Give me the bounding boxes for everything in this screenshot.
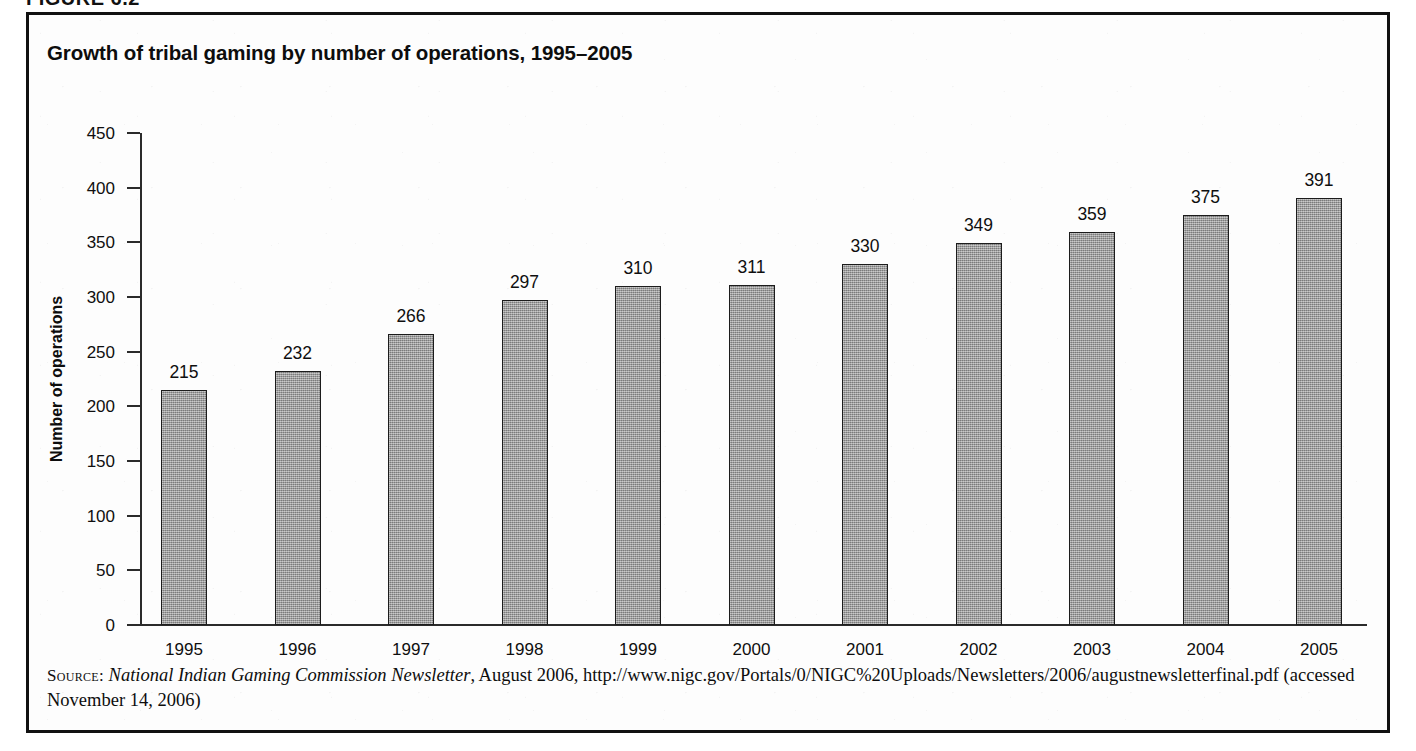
bar-value-label-2001: 330 xyxy=(825,236,905,257)
bar-value-label-2004: 375 xyxy=(1166,187,1246,208)
source-url: http://www.nigc.gov/Portals/0/NIGC%20Upl… xyxy=(583,665,1279,685)
bar-2004 xyxy=(1183,215,1229,625)
y-axis-tick-label: 100 xyxy=(55,507,115,527)
bar-1996 xyxy=(275,371,321,625)
y-axis-tick-label: 400 xyxy=(55,179,115,199)
x-axis-tick-label-2000: 2000 xyxy=(707,640,797,660)
y-axis-tick xyxy=(127,624,140,626)
y-axis-tick xyxy=(127,351,140,353)
x-axis-tick-label-1999: 1999 xyxy=(593,640,683,660)
y-axis-tick-label: 200 xyxy=(55,397,115,417)
bar-2005 xyxy=(1296,198,1342,625)
y-axis-line xyxy=(140,133,142,626)
bar-value-label-2003: 359 xyxy=(1052,204,1132,225)
bar-value-label-1995: 215 xyxy=(144,362,224,383)
y-axis-tick xyxy=(127,187,140,189)
source-date: , August 2006, xyxy=(470,665,583,685)
x-axis-tick-label-2001: 2001 xyxy=(820,640,910,660)
y-axis-tick-label: 450 xyxy=(55,124,115,144)
y-axis-tick xyxy=(127,296,140,298)
bar-1999 xyxy=(615,286,661,625)
y-axis-tick-label: 250 xyxy=(55,343,115,363)
y-axis-tick-label: 150 xyxy=(55,452,115,472)
x-axis-tick-label-2002: 2002 xyxy=(934,640,1024,660)
x-axis-tick-label-2005: 2005 xyxy=(1274,640,1364,660)
source-note: Source: National Indian Gaming Commissio… xyxy=(47,663,1377,713)
y-axis-tick xyxy=(127,241,140,243)
y-axis-tick xyxy=(127,569,140,571)
y-axis-tick-label: 350 xyxy=(55,233,115,253)
bar-2000 xyxy=(729,285,775,625)
x-axis-tick-label-1996: 1996 xyxy=(253,640,343,660)
bar-value-label-2005: 391 xyxy=(1279,170,1359,191)
bar-value-label-1996: 232 xyxy=(258,343,338,364)
y-axis-tick xyxy=(127,132,140,134)
y-axis-tick xyxy=(127,405,140,407)
y-axis-tick-label: 300 xyxy=(55,288,115,308)
bar-1995 xyxy=(161,390,207,625)
x-axis-tick-label-1998: 1998 xyxy=(480,640,570,660)
bar-value-label-1999: 310 xyxy=(598,258,678,279)
bar-chart-plot-area: Number of operations 0501001502002503003… xyxy=(29,15,1393,736)
bar-value-label-2000: 311 xyxy=(712,257,792,278)
bar-2002 xyxy=(956,243,1002,625)
source-label: Source: xyxy=(47,666,104,685)
x-axis-tick-label-2003: 2003 xyxy=(1047,640,1137,660)
bar-2001 xyxy=(842,264,888,625)
x-axis-tick-label-2004: 2004 xyxy=(1161,640,1251,660)
bar-1997 xyxy=(388,334,434,625)
y-axis-tick-label: 50 xyxy=(55,561,115,581)
y-axis-tick-label: 0 xyxy=(55,616,115,636)
bar-2003 xyxy=(1069,232,1115,625)
source-publication-title: National Indian Gaming Commission Newsle… xyxy=(109,665,471,685)
x-axis-tick-label-1997: 1997 xyxy=(366,640,456,660)
figure-frame: Growth of tribal gaming by number of ope… xyxy=(26,12,1390,733)
bar-value-label-1997: 266 xyxy=(371,306,451,327)
figure-number-label: FIGURE 6.2 xyxy=(26,0,140,10)
y-axis-tick xyxy=(127,515,140,517)
bar-value-label-2002: 349 xyxy=(939,215,1019,236)
y-axis-tick xyxy=(127,460,140,462)
x-axis-tick-label-1995: 1995 xyxy=(139,640,229,660)
y-axis-title: Number of operations xyxy=(48,296,66,462)
bar-1998 xyxy=(502,300,548,625)
bar-value-label-1998: 297 xyxy=(485,272,565,293)
